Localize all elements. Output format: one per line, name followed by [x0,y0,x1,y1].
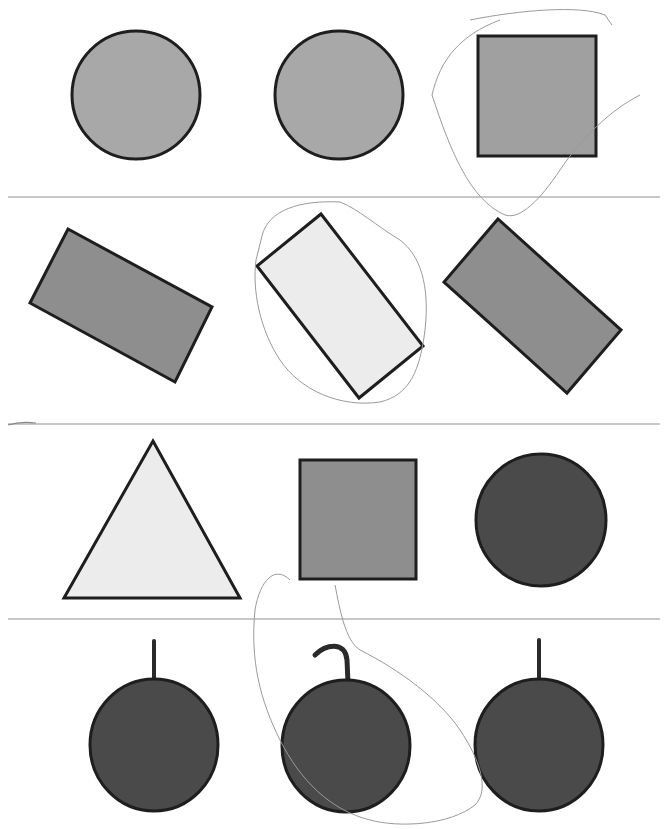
worksheet [0,0,666,829]
row-4 [90,574,603,824]
worksheet-canvas [0,0,666,829]
curved-stem [315,646,348,683]
shape-circle[interactable] [476,454,606,586]
shape-circle[interactable] [275,31,403,159]
row-2 [30,202,621,403]
shape-circle[interactable] [72,31,200,159]
shape-fruit[interactable] [282,680,410,812]
shape-rotated-rectangle[interactable] [30,229,212,382]
row-3 [64,441,606,598]
row-1 [72,10,640,216]
shape-rectangle[interactable] [300,460,416,579]
shape-fruit[interactable] [475,679,603,811]
shape-triangle[interactable] [64,441,240,598]
shape-fruit[interactable] [90,679,218,811]
shape-square[interactable] [478,36,596,156]
shape-rotated-rectangle[interactable] [444,219,621,393]
shape-rotated-rectangle[interactable] [257,214,423,398]
